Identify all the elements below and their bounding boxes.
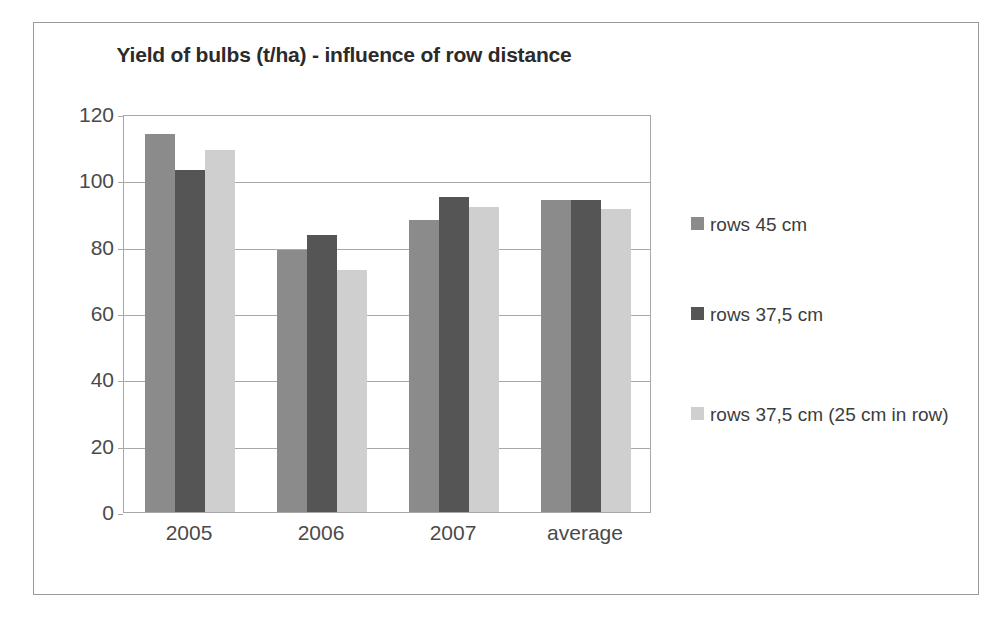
bar	[571, 200, 601, 512]
bar-group	[124, 116, 256, 512]
y-axis-tick-label: 0	[54, 501, 114, 525]
x-axis-tick-label: 2006	[255, 521, 387, 545]
legend-item[interactable]: rows 37,5 cm	[691, 303, 961, 326]
legend-label: rows 37,5 cm (25 cm in row)	[710, 403, 949, 426]
y-axis-tick-label: 120	[54, 103, 114, 127]
y-axis-tick-mark	[118, 381, 123, 382]
legend-swatch-icon	[691, 307, 704, 320]
bar-group	[520, 116, 652, 512]
x-axis-tick-label: 2005	[123, 521, 255, 545]
bar-group	[256, 116, 388, 512]
y-axis-tick-mark	[118, 448, 123, 449]
legend-swatch-icon	[691, 407, 704, 420]
y-axis-labels: 120100806040200	[44, 115, 114, 513]
bar	[277, 250, 307, 512]
y-axis-tick-mark	[118, 315, 123, 316]
legend-swatch-icon	[691, 217, 704, 230]
y-axis-tick-mark	[118, 116, 123, 117]
y-axis-tick-label: 100	[54, 169, 114, 193]
chart-title: Yield of bulbs (t/ha) - influence of row…	[34, 43, 654, 67]
legend-label: rows 37,5 cm	[710, 303, 823, 326]
y-axis-tick-label: 40	[54, 368, 114, 392]
y-axis-tick-mark	[118, 514, 123, 515]
legend-label: rows 45 cm	[710, 213, 807, 236]
y-axis-tick-mark	[118, 249, 123, 250]
bar	[409, 220, 439, 512]
plot-area	[123, 115, 651, 513]
x-axis-tick-label: 2007	[387, 521, 519, 545]
bar	[469, 207, 499, 512]
bar	[439, 197, 469, 512]
y-axis-tick-mark	[118, 182, 123, 183]
legend-item[interactable]: rows 45 cm	[691, 213, 961, 236]
bar	[541, 200, 571, 512]
y-axis-tick-label: 80	[54, 236, 114, 260]
x-axis-labels: 200520062007average	[123, 521, 651, 561]
bar	[205, 150, 235, 512]
bar-group	[388, 116, 520, 512]
bar	[601, 209, 631, 512]
bar	[307, 235, 337, 512]
x-axis-tick-label: average	[519, 521, 651, 545]
bar	[175, 170, 205, 512]
y-axis-tick-label: 60	[54, 302, 114, 326]
bar	[337, 270, 367, 512]
y-axis-tick-label: 20	[54, 435, 114, 459]
legend-item[interactable]: rows 37,5 cm (25 cm in row)	[691, 403, 961, 426]
chart-frame: Yield of bulbs (t/ha) - influence of row…	[33, 22, 979, 595]
bar	[145, 134, 175, 512]
